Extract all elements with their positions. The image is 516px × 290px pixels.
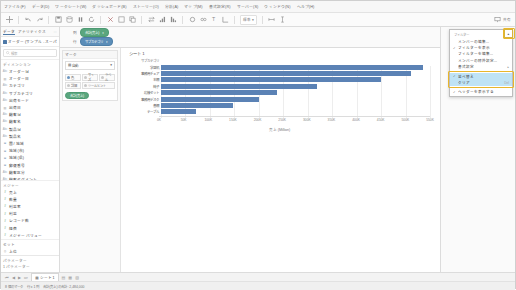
context-menu-item-exclude[interactable]: メンバーの除外設定... [450,57,512,63]
field-customer-name[interactable]: Abc顧客名 [1,118,59,125]
redo-icon[interactable] [35,16,43,24]
menu-item-server[interactable]: サーバー(S) [237,4,259,9]
field-subcategory[interactable]: Abcサブカテゴリ [1,90,59,97]
next-sheet-icon[interactable]: ▶ [18,275,21,280]
marks-type-dropdown[interactable]: ▤ 自動 ▾ [65,61,115,70]
show-labels-icon[interactable]: T [210,16,218,24]
duplicate-sheet-icon[interactable] [128,16,136,24]
context-menu-item-edit-filter[interactable]: フィルターを編集... [450,51,512,57]
field-record-count[interactable]: #レコード数 [1,217,59,224]
columns-shelf-well[interactable]: 合計(売上) ▾ [80,29,437,37]
context-menu-item-show-header[interactable]: ✓ ヘッダーを表示する [450,89,512,95]
menu-item-analysis[interactable]: 分析(A) [165,4,179,9]
context-menu-item-format[interactable]: 書式設定 ▸ [450,64,512,70]
field-state[interactable]: ⊕地域 (県) [1,154,59,161]
marks-tooltip-button[interactable]: ツールヒント [82,82,115,89]
bar-row[interactable]: テーブル [129,109,430,115]
fit-height-icon[interactable] [279,16,287,24]
menu-item-dashboard[interactable]: ダッシュボード(B) [92,4,126,9]
bar[interactable] [161,97,259,102]
share-label[interactable]: 共有 [503,17,511,22]
bar-row-label[interactable]: 書棚 [129,103,161,108]
field-customer-id[interactable]: Abc顧客 Id [1,111,59,118]
swap-rows-columns-icon[interactable] [147,16,155,24]
new-worksheet-icon[interactable] [117,16,125,24]
clear-sheet-icon[interactable] [106,16,114,24]
field-product-name[interactable]: Abc製品名 [1,133,59,140]
pause-updates-icon[interactable] [76,16,84,24]
set-top[interactable]: ◎ 上位 [1,248,59,255]
highlight-icon[interactable] [188,16,196,24]
bar[interactable] [161,90,277,95]
menu-item-worksheet[interactable]: ワークシート(W) [55,4,86,9]
field-category[interactable]: Abcカテゴリ [1,82,59,89]
pill-sum-sales[interactable]: 合計(売上) ▾ [80,28,109,37]
context-menu-item-clear[interactable]: クリア Del [450,79,512,85]
field-segment[interactable]: Abc顧客区分 [1,169,59,176]
fit-dropdown[interactable]: 標準 ▾ [240,15,257,25]
bar-row-label[interactable]: テーブル [129,109,161,114]
context-menu-item-edit-alias[interactable]: メンバーの編集... [450,38,512,44]
new-dashboard-icon[interactable]: ▦ [68,275,72,280]
tab-data[interactable]: データ [3,29,15,35]
last-sheet-icon[interactable]: ⏭ [24,275,28,280]
data-source-block[interactable]: オーダー (サンプル - スーパーストア) [1,37,59,47]
presentation-mode-icon[interactable] [493,16,501,24]
rows-shelf[interactable]: 行 サブカテゴリ ▾ [60,37,440,46]
bar[interactable] [161,65,423,70]
field-measure-values[interactable]: #メジャー バリュー [1,232,59,239]
bar[interactable] [161,71,411,76]
group-members-icon[interactable] [199,16,207,24]
marks-color-button[interactable]: 色 [65,74,81,81]
columns-shelf[interactable]: 列 合計(売上) ▾ [60,28,440,37]
tableau-logo-icon[interactable] [5,16,13,24]
field-sales[interactable]: #売上 [1,189,59,196]
pill-subcategory[interactable]: サブカテゴリ ▾ [80,37,113,46]
chevron-down-icon[interactable]: ▾ [106,40,108,44]
save-icon[interactable] [54,16,62,24]
marks-detail-button[interactable]: 詳細 [65,82,81,89]
field-ship-date[interactable]: ▤出荷日 [1,104,59,111]
prev-sheet-icon[interactable]: ◀ [12,275,15,280]
context-menu-item-show-filter[interactable]: ✓ フィルターを表示 [450,44,512,50]
bar-row-label[interactable]: 事務用チェア [129,71,161,76]
menu-item-window[interactable]: ウィンドウ(N) [264,4,290,9]
field-country[interactable]: ⊕国 / 地域 [1,140,59,147]
field-city[interactable]: ⊕地域 (市) [1,147,59,154]
new-worksheet-icon[interactable]: ▤ [62,275,66,280]
field-margin[interactable]: #利益率 [1,203,59,210]
menu-item-file[interactable]: ファイル(F) [4,4,26,9]
field-expense[interactable]: #経費 [1,224,59,231]
new-data-source-icon[interactable] [65,16,73,24]
field-order-date[interactable]: ▤オーダー日 [1,75,59,82]
context-menu-item-sort[interactable]: ✓ 並べ替え [450,73,512,79]
sheet-tab-1[interactable]: ▤ シート 1 [31,273,58,281]
marks-size-button[interactable]: サイズ [82,74,98,81]
field-ship-mode[interactable]: Abc出荷モード [1,97,59,104]
collapse-pane-button[interactable]: ▴ [504,29,513,38]
field-profit[interactable]: #利益 [1,210,59,217]
bar-row-label[interactable]: 椅子 [129,84,161,89]
tab-analytics[interactable]: アナリティクス [18,29,46,35]
sort-ascending-icon[interactable] [158,16,166,24]
menu-item-help[interactable]: ヘルプ(H) [297,4,315,9]
field-postal[interactable]: ⊕郵便番号 [1,161,59,168]
bar[interactable] [161,103,233,108]
chevron-down-icon[interactable]: ▾ [102,31,104,35]
rows-shelf-well[interactable]: サブカテゴリ ▾ [80,38,437,46]
fit-width-icon[interactable] [268,16,276,24]
marks-label-button[interactable]: ラベル [99,74,115,81]
bar-row-label[interactable]: 学習机 [129,65,161,70]
sort-descending-icon[interactable] [169,16,177,24]
field-product-id[interactable]: Abc製品 Id [1,126,59,133]
bar-row-label[interactable]: 応接セット [129,90,161,95]
x-axis-line[interactable]: 0K50K100K150K200K250K300K350K400K450K500… [159,116,430,126]
menu-item-story[interactable]: ストーリー(O) [133,4,159,9]
bar[interactable] [161,77,381,82]
menu-item-format[interactable]: 書式設定(R) [209,4,231,9]
marks-pill-sum-sales[interactable]: 合計(売上) [65,92,89,100]
menu-item-map[interactable]: マップ(M) [184,4,202,9]
fixed-axis-icon[interactable] [221,16,229,24]
bar[interactable] [161,109,196,114]
bar[interactable] [161,84,317,89]
